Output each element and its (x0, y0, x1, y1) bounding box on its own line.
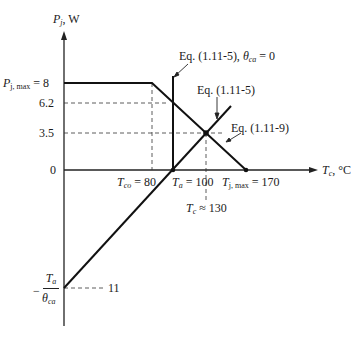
annotation-eq-1-11-5: Eq. (1.11-5) (197, 84, 255, 96)
xlabel-main: T (322, 163, 329, 177)
annotation-eq-1-11-9: Eq. (1.11-9) (231, 122, 289, 134)
tjmax-main: T (222, 175, 229, 189)
x-axis-label: Tc, °C (322, 164, 351, 178)
tjmax-point (244, 168, 249, 173)
ylabel-unit: , W (63, 12, 80, 26)
xlabel-unit: , °C (332, 163, 351, 177)
tco-val: = 80 (131, 175, 156, 189)
ytick-0: 0 (50, 164, 56, 176)
xtick-tc: Tc ≈ 130 (186, 202, 227, 216)
value-minus-11: 11 (108, 282, 120, 294)
frac-den-sub: ca (48, 297, 56, 306)
tc-main: T (186, 201, 193, 215)
xtick-tjmax: Tj, max = 170 (222, 176, 279, 190)
xtick-tco: Tco = 80 (117, 176, 156, 190)
tjmax-val: = 170 (249, 175, 280, 189)
eq-theta-pre: Eq. (1.11-5), (179, 49, 243, 63)
frac-denominator: θca (42, 292, 55, 306)
operating-point (203, 130, 209, 136)
x-axis-arrow-icon (309, 167, 318, 173)
fraction-bar (43, 288, 59, 289)
neg-sign: − (33, 285, 40, 297)
y-axis-label: Pj, W (53, 13, 80, 27)
tco-main: T (117, 175, 124, 189)
ta-main: T (172, 175, 179, 189)
ytick-pmax: Pj, max = 8 (3, 77, 49, 91)
ta-val: = 100 (183, 175, 214, 189)
y-axis-arrow-icon (61, 31, 67, 40)
frac-numerator: Ta (43, 272, 59, 286)
xtick-ta: Ta = 100 (172, 176, 213, 190)
annotation-eq-theta0: Eq. (1.11-5), θca = 0 (179, 50, 275, 64)
frac-num-sub: a (52, 277, 56, 286)
ytick-3-5: 3.5 (39, 127, 54, 139)
ytick-6-2: 6.2 (39, 97, 54, 109)
ta-point (171, 168, 176, 173)
tc-val: ≈ 130 (196, 201, 227, 215)
pmax-sub: j, max (10, 82, 30, 91)
pmax-val: = 8 (30, 76, 49, 90)
eq-theta-post: = 0 (256, 49, 275, 63)
tjmax-sub: j, max (229, 181, 249, 190)
